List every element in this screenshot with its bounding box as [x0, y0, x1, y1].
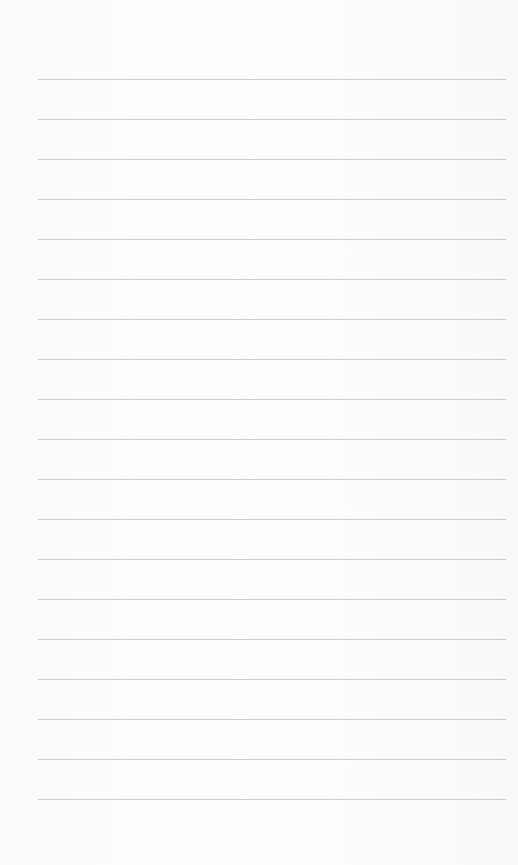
ruled-line	[38, 199, 506, 200]
lined-paper	[0, 0, 518, 865]
ruled-line	[38, 119, 506, 120]
ruled-line	[38, 399, 506, 400]
ruled-line	[38, 559, 506, 560]
ruled-line	[38, 759, 506, 760]
ruled-line	[38, 639, 506, 640]
ruled-line	[38, 159, 506, 160]
ruled-line	[38, 239, 506, 240]
ruled-line	[38, 79, 506, 80]
ruled-line	[38, 319, 506, 320]
ruled-line	[38, 719, 506, 720]
ruled-line	[38, 599, 506, 600]
ruled-line	[38, 359, 506, 360]
ruled-line	[38, 679, 506, 680]
ruled-line	[38, 519, 506, 520]
ruled-line	[38, 439, 506, 440]
ruled-line	[38, 479, 506, 480]
ruled-line	[38, 279, 506, 280]
ruled-line	[38, 799, 506, 800]
